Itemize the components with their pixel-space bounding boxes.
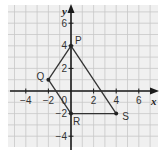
point-label-p: P: [75, 35, 82, 46]
y-tick-label: −2: [56, 108, 68, 119]
point-label-s: S: [122, 111, 129, 122]
point-label-q: Q: [36, 71, 44, 82]
x-tick-label: −2: [43, 95, 55, 106]
x-tick-label: 6: [136, 95, 142, 106]
x-tick-label: −4: [20, 95, 32, 106]
y-tick-label: 4: [61, 40, 67, 51]
y-tick-label: 6: [61, 18, 67, 29]
coordinate-plane: xy −4−2246642−2−40 PQRS: [0, 0, 166, 160]
point-q: [46, 78, 50, 82]
y-tick-label: 2: [61, 63, 67, 74]
point-s: [114, 112, 118, 116]
point-p: [69, 44, 73, 48]
y-tick-label: −4: [56, 131, 68, 142]
x-axis-label: x: [150, 95, 157, 107]
point-label-r: R: [73, 116, 80, 127]
x-tick-label: 2: [91, 95, 97, 106]
y-axis-label: y: [60, 5, 67, 17]
x-tick-label: 4: [113, 95, 119, 106]
grid-background: [8, 5, 158, 147]
